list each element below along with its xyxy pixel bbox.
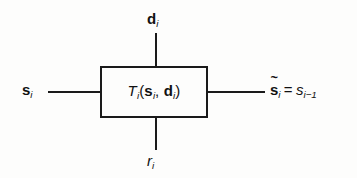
block-label: Ti(si,di) [128, 82, 181, 101]
input-d-symbol: d [147, 10, 156, 27]
input-d-subscript: i [156, 18, 158, 29]
equals-sign: = [281, 81, 296, 98]
port-label-input-s: si [22, 81, 33, 100]
tilde-accent-icon: ~ [270, 72, 277, 85]
block-close-paren: ) [175, 82, 180, 99]
wire-right-output-s-tilde [207, 91, 265, 93]
block-arg2-symbol: d [164, 82, 173, 99]
output-result-subscript: i−1 [303, 89, 316, 100]
block-function-symbol: T [128, 82, 137, 99]
wire-top-input-d [155, 33, 157, 66]
diagram-canvas: Ti(si,di) di ri si ~si=si−1 [0, 0, 357, 178]
wire-bottom-input-r [155, 118, 157, 150]
port-label-output-s-tilde: ~si=si−1 [270, 81, 317, 100]
transition-function-block: Ti(si,di) [100, 66, 208, 118]
input-s-subscript: i [30, 89, 32, 100]
input-r-subscript: i [152, 160, 154, 171]
port-label-input-d: di [147, 10, 158, 29]
block-arg1-symbol: s [144, 82, 153, 99]
port-label-input-r: ri [147, 152, 154, 171]
output-s-accented-symbol: ~s [270, 81, 278, 98]
wire-left-input-s [48, 91, 101, 93]
block-comma: , [155, 82, 159, 99]
